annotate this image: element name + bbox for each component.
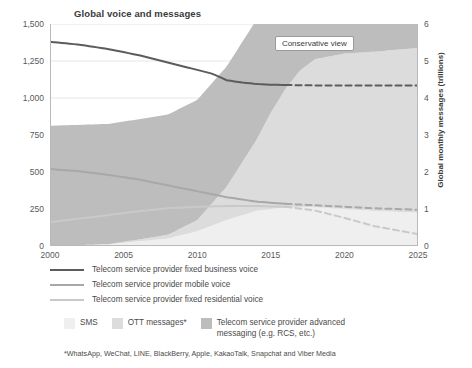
legend-line-label: Telecom service provider fixed business … bbox=[92, 265, 258, 274]
legend-area-item[interactable]: Telecom service provider advanced messag… bbox=[201, 318, 382, 339]
y-tick-left: 1,000 bbox=[0, 93, 44, 103]
y-axis-left bbox=[50, 24, 51, 246]
legend-area-item[interactable]: OTT messages* bbox=[112, 318, 187, 329]
legend-area-swatch bbox=[112, 318, 123, 329]
legend-area-item[interactable]: SMS bbox=[64, 318, 98, 329]
legend-area-swatch bbox=[201, 318, 212, 329]
y-tick-left: 1,250 bbox=[0, 56, 44, 66]
y-tick-left: 250 bbox=[0, 204, 44, 214]
legend-area-label: Telecom service provider advanced messag… bbox=[217, 318, 382, 339]
y-axis-right-label: Global monthly messages (trillions) bbox=[436, 52, 445, 188]
y-tick-left: 500 bbox=[0, 167, 44, 177]
chart-footnote: *WhatsApp, WeChat, LINE, BlackBerry, App… bbox=[64, 349, 336, 358]
y-tick-left: 1,500 bbox=[0, 19, 44, 29]
x-tick: 2000 bbox=[30, 250, 70, 260]
x-tick: 2020 bbox=[324, 250, 364, 260]
chart-root: Global voice and messages 02505007501,00… bbox=[0, 0, 472, 368]
x-tick: 2015 bbox=[251, 250, 291, 260]
area-series-group bbox=[50, 24, 418, 246]
legend-line-item[interactable]: Telecom service provider fixed business … bbox=[50, 264, 450, 275]
legend-line-swatch bbox=[50, 284, 84, 286]
conservative-view-annotation: Conservative view bbox=[275, 36, 354, 51]
legend-line-label: Telecom service provider mobile voice bbox=[92, 280, 230, 289]
chart-title: Global voice and messages bbox=[74, 8, 201, 19]
legend-area-label: SMS bbox=[80, 318, 98, 329]
x-tick: 2025 bbox=[398, 250, 438, 260]
legend-line-label: Telecom service provider fixed residenti… bbox=[92, 295, 263, 304]
legend-line-item[interactable]: Telecom service provider mobile voice bbox=[50, 279, 450, 290]
legend-area-swatch bbox=[64, 318, 75, 329]
chart-canvas bbox=[50, 24, 418, 246]
legend-line-swatch bbox=[50, 299, 84, 301]
y-tick-left: 750 bbox=[0, 130, 44, 140]
plot-area: 02505007501,0001,2501,500 0123456 200020… bbox=[50, 24, 418, 246]
y-tick-right: 1 bbox=[424, 204, 448, 214]
legend-lines: Telecom service provider fixed business … bbox=[50, 264, 450, 309]
legend-areas: SMSOTT messages*Telecom service provider… bbox=[64, 318, 396, 339]
x-tick: 2005 bbox=[104, 250, 144, 260]
x-axis bbox=[50, 245, 418, 246]
legend-line-swatch bbox=[50, 269, 84, 271]
y-tick-right: 6 bbox=[424, 19, 448, 29]
x-tick: 2010 bbox=[177, 250, 217, 260]
legend-area-label: OTT messages* bbox=[128, 318, 187, 329]
legend-line-item[interactable]: Telecom service provider fixed residenti… bbox=[50, 294, 450, 305]
y-axis-right bbox=[417, 24, 418, 246]
